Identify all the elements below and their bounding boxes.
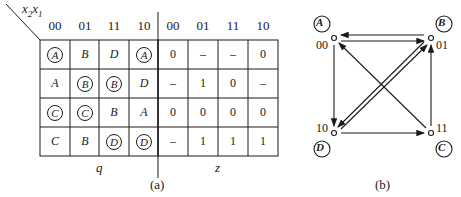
caption-b: (b) xyxy=(375,177,390,193)
code-11: 11 xyxy=(436,121,448,136)
state-diagram-edges xyxy=(0,0,461,197)
code-10: 10 xyxy=(316,121,328,136)
state-node-B: B xyxy=(438,16,445,28)
code-01: 01 xyxy=(436,38,448,53)
state-node-A: A xyxy=(316,16,323,28)
state-node-C: C xyxy=(438,141,445,153)
code-00: 00 xyxy=(316,38,328,53)
state-node-D: D xyxy=(316,141,324,153)
